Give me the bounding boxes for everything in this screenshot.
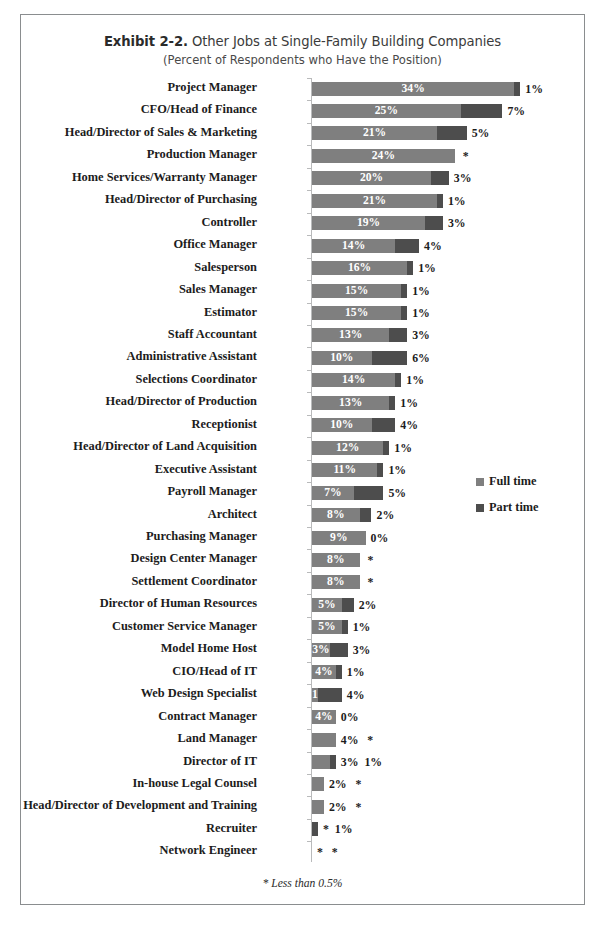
bar-value-part-time: * (368, 574, 374, 590)
bar-value-full-time: 3% (312, 644, 330, 656)
bar-row: Settlement Coordinator8% * (21, 572, 584, 594)
category-label: Payroll Manager (0, 484, 257, 499)
bar-value-part-time: 1% (412, 305, 430, 321)
legend-swatch-full-time-icon (476, 478, 484, 486)
bar-row: Office Manager14%4% (21, 235, 584, 257)
bar-value-full-time: 21% (312, 128, 437, 140)
bar-outside-labels: 1% (406, 372, 424, 388)
category-label: Model Home Host (0, 641, 257, 656)
bar-segment-full-time: 10% (312, 351, 372, 365)
bar-row: Network Engineer* * (21, 841, 584, 863)
legend-item-part-time: Part time (476, 500, 539, 515)
bar-segment-full-time: 19% (312, 216, 425, 230)
bar-value-part-time: * (463, 148, 469, 164)
bar-value-part-time: * (367, 732, 373, 748)
bar-row: Production Manager24% * (21, 145, 584, 167)
bar-row: Receptionist10%4% (21, 415, 584, 437)
bar-segment-full-time: 11% (312, 463, 377, 477)
category-label: Director of IT (0, 754, 257, 769)
bar-segment-full-time: 5% (312, 598, 342, 612)
bar-segment-full-time: 24% (312, 149, 455, 163)
axis-tick (307, 482, 311, 483)
bar-value-full-time: 34% (312, 83, 514, 95)
bar-value-part-time: 4% (400, 417, 418, 433)
stacked-bar (312, 800, 324, 814)
bar-outside-labels: * 1% (323, 821, 353, 837)
axis-tick (307, 123, 311, 124)
bar-value-full-time: 2% (329, 776, 347, 792)
stacked-bar: 10% (312, 351, 407, 365)
bar-segment-full-time: 5% (312, 620, 342, 634)
stacked-bar: 10% (312, 418, 395, 432)
bar-segment-part-time (401, 306, 407, 320)
bar-segment-part-time (336, 665, 342, 679)
bar-row: Selections Coordinator14%1% (21, 370, 584, 392)
bar-value-part-time: 1% (418, 260, 436, 276)
bar-outside-labels: 2% * (329, 776, 361, 792)
bar-value-full-time: 19% (312, 217, 425, 229)
stacked-bar: 8% (312, 575, 360, 589)
bar-segment-part-time (342, 598, 354, 612)
category-label: Production Manager (0, 147, 257, 162)
bar-value-part-time: 2% (359, 597, 377, 613)
axis-tick (307, 370, 311, 371)
bar-value-part-time: 1% (335, 821, 353, 837)
bar-row: Head/Director of Production13%1% (21, 392, 584, 414)
category-label: Head/Director of Sales & Marketing (0, 125, 257, 140)
stacked-bar: 24% (312, 149, 455, 163)
bar-outside-labels: 2% * (329, 799, 361, 815)
bar-value-part-time: 2% (377, 507, 395, 523)
bar-row: Head/Director of Development and Trainin… (21, 796, 584, 818)
bar-row: Salesperson16%1% (21, 258, 584, 280)
bar-row: Web Design Specialist1%4% (21, 684, 584, 706)
bar-value-part-time: 1% (525, 81, 543, 97)
category-label: Head/Director of Development and Trainin… (0, 798, 257, 813)
category-label: Selections Coordinator (0, 372, 257, 387)
axis-tick (307, 145, 311, 146)
bar-segment-part-time (360, 508, 372, 522)
bar-value-part-time: 7% (507, 103, 525, 119)
bar-outside-labels: 1% (448, 193, 466, 209)
axis-tick (307, 549, 311, 550)
legend-label-full-time: Full time (489, 474, 536, 489)
category-label: CIO/Head of IT (0, 664, 257, 679)
bar-segment-full-time (312, 777, 324, 791)
category-label: Contract Manager (0, 709, 257, 724)
axis-tick (307, 235, 311, 236)
axis-tick (307, 325, 311, 326)
bar-segment-full-time: 21% (312, 194, 437, 208)
stacked-bar: 15% (312, 306, 407, 320)
bar-value-full-time: 10% (312, 352, 372, 364)
bar-value-full-time: 3% (341, 754, 359, 770)
bar-segment-full-time: 14% (312, 239, 395, 253)
bar-row: Design Center Manager8% * (21, 549, 584, 571)
bar-outside-labels: 4% (400, 417, 418, 433)
bar-outside-labels: 1% (394, 440, 412, 456)
bar-outside-labels: 1% (353, 619, 371, 635)
stacked-bar: 13% (312, 328, 407, 342)
category-label: Sales Manager (0, 282, 257, 297)
stacked-bar: 8% (312, 508, 371, 522)
bar-segment-full-time: 34% (312, 82, 514, 96)
bar-row: Head/Director of Land Acquisition12%1% (21, 437, 584, 459)
bar-value-part-time: 1% (353, 619, 371, 635)
category-label: Home Services/Warranty Manager (0, 170, 257, 185)
legend-swatch-part-time-icon (476, 504, 484, 512)
bar-value-full-time: 12% (312, 442, 383, 454)
axis-tick (307, 617, 311, 618)
bar-segment-full-time: 4% (312, 665, 336, 679)
bar-value-full-time: 4% (312, 711, 336, 723)
axis-tick (307, 594, 311, 595)
stacked-bar: 21% (312, 194, 443, 208)
category-label: Administrative Assistant (0, 349, 257, 364)
chart-legend: Full time Part time (476, 474, 539, 526)
bar-outside-labels: 3% (412, 327, 430, 343)
bar-value-full-time: 16% (312, 262, 407, 274)
bar-segment-part-time (425, 216, 443, 230)
bar-segment-full-time: 14% (312, 373, 395, 387)
bar-outside-labels: 7% (507, 103, 525, 119)
exhibit-title-text: Other Jobs at Single-Family Building Com… (192, 34, 501, 49)
bar-row: Contract Manager4%0% (21, 707, 584, 729)
category-label: Controller (0, 215, 257, 230)
bar-outside-labels: 4% * (341, 732, 373, 748)
